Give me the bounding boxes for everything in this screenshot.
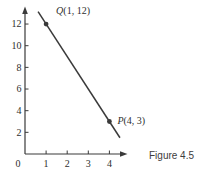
point-coords-P: (4, 3) xyxy=(124,115,146,127)
y-tick-label: 6 xyxy=(17,83,22,94)
figure: 2468101212340Q(1, 12)P(4, 3) Figure 4.5 xyxy=(0,0,205,178)
y-axis-arrow-icon xyxy=(22,7,28,15)
x-tick-label: 3 xyxy=(86,158,91,169)
y-tick-label: 2 xyxy=(17,127,22,138)
point-coords-Q: (1, 12) xyxy=(63,5,90,17)
point-Q xyxy=(44,22,49,27)
y-tick-label: 8 xyxy=(17,62,22,73)
y-tick-label: 12 xyxy=(12,18,22,29)
point-letter-P: P xyxy=(116,115,123,126)
point-label-Q: Q(1, 12) xyxy=(56,5,90,17)
x-tick-label: 4 xyxy=(107,158,112,169)
x-axis-arrow-icon xyxy=(120,151,128,157)
point-label-P: P(4, 3) xyxy=(116,115,145,127)
point-P xyxy=(107,119,112,124)
y-tick-label: 4 xyxy=(17,105,22,116)
origin-label: 0 xyxy=(16,158,21,169)
x-tick-label: 1 xyxy=(44,158,49,169)
line-PQ xyxy=(38,12,120,138)
x-tick-label: 2 xyxy=(65,158,70,169)
figure-caption: Figure 4.5 xyxy=(149,150,194,161)
y-tick-label: 10 xyxy=(12,40,22,51)
